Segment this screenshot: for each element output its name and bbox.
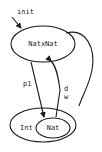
edge-label-d: d	[64, 85, 68, 93]
edge-init: init	[12, 8, 34, 28]
edge-label-init: init	[17, 8, 34, 16]
edge-label-p1: p1	[23, 80, 31, 88]
node-label-nat: Nat	[47, 124, 60, 132]
node-label-int: Int	[20, 124, 33, 132]
diagram-canvas: init NatxNat d w p1 Int Nat	[0, 0, 102, 152]
node-label-natxnat: NatxNat	[28, 40, 58, 48]
init-arrow	[12, 17, 21, 28]
d-w-outer-arc	[66, 32, 93, 106]
node-natxnat: NatxNat	[11, 26, 75, 62]
edge-label-w: w	[64, 93, 69, 101]
node-nat: Nat	[36, 118, 70, 138]
